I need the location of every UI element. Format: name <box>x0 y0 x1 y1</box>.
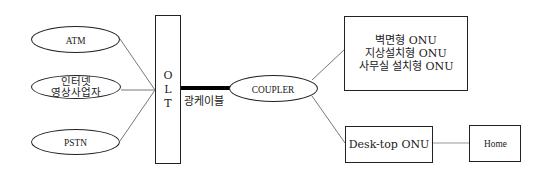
office-onu-label: 사무실 설치형 ONU <box>359 60 454 73</box>
olt-letter-t: T <box>164 97 171 111</box>
home-node: Home <box>469 125 521 162</box>
optical-cable-label: 광케이블 <box>184 92 224 108</box>
atm-node: ATM <box>31 26 120 53</box>
pstn-label: PSTN <box>64 136 87 148</box>
home-label: Home <box>484 137 507 150</box>
coupler-onu-group-link <box>312 49 345 80</box>
olt-node: O L T <box>155 15 181 164</box>
internet-video-label-line2: 영상사업자 <box>51 87 101 98</box>
desktop-onu-label: Desk-top ONU <box>349 138 430 151</box>
coupler-label: COUPLER <box>252 83 295 95</box>
atm-olt-link <box>120 39 155 90</box>
internet-video-provider-node: 인터넷 영상사업자 <box>31 75 121 99</box>
atm-label: ATM <box>66 34 86 46</box>
pstn-olt-link <box>120 90 155 141</box>
olt-letter-o: O <box>163 69 172 83</box>
wall-onu-label: 벽면형 ONU <box>375 34 436 47</box>
coupler-node: COUPLER <box>229 75 318 102</box>
coupler-desktop-onu-link <box>312 96 345 143</box>
onu-group-node: 벽면형 ONU 지상설치형 ONU 사무실 설치형 ONU <box>344 16 468 91</box>
olt-letter-l: L <box>164 83 171 97</box>
desktop-onu-node: Desk-top ONU <box>345 126 433 163</box>
ground-onu-label: 지상설치형 ONU <box>365 47 446 60</box>
pstn-node: PSTN <box>31 129 120 155</box>
